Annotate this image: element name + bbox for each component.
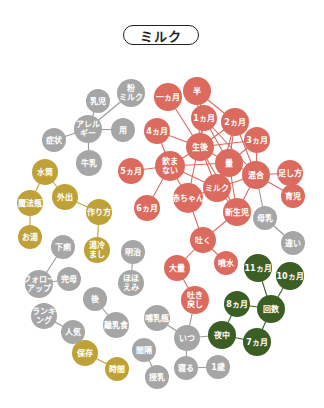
node-label: 粉 [127,83,135,93]
node-label: ない [162,166,178,175]
node-1sai: 1歳 [206,355,230,379]
node-label: 夜中 [213,330,230,340]
node-han: 半 [183,77,211,105]
node-label: 一ヵ月 [156,93,180,102]
node-itsu: いつ [174,325,200,351]
node-allergy: アレルギー [74,115,102,143]
node-label: 戻し [186,299,203,309]
node-followup: フォローアップ [23,270,55,298]
node-label: 吐く [195,235,211,245]
node-nomanai: 飲まない [155,151,185,181]
node-label: 7ヵ月 [246,338,268,347]
node-label: 1ヵ月 [193,114,215,123]
node-label: ミルク [119,92,143,102]
node-label: 8ヵ月 [226,300,248,309]
node-label: 育児 [285,191,301,201]
node-label: 後 [91,294,100,304]
node-milk: ミルク [203,174,231,202]
node-suito: 水筒 [32,159,58,185]
node-jikan: 時間 [105,357,129,381]
node-kaisu: 回数 [257,295,285,323]
node-label: 違い [285,238,301,248]
node-label: 離乳食 [104,320,129,330]
node-label: 水筒 [36,167,53,177]
node-gyunyu: 牛乳 [76,150,102,176]
node-label: 症状 [46,135,63,145]
node-label: 4ヵ月 [146,127,168,136]
node-label: 2ヵ月 [224,118,246,127]
node-2kagetsu: 2ヵ月 [221,108,249,136]
node-meiji: 明治 [121,240,145,264]
node-label: 6ヵ月 [136,204,158,213]
node-label: 乳児 [90,96,106,106]
node-label: 母乳 [257,213,273,223]
node-kongo: 混合 [242,161,270,189]
node-ikuji: 育児 [281,184,305,208]
node-label: いつ [179,334,195,343]
node-hakimodoshi: 吐き戻し [181,286,209,314]
node-ranking: ランキング [31,303,57,329]
node-tsukurikata: 作り方 [86,199,112,225]
node-label: 赤ちゃん [172,193,204,203]
node-label: 生後 [192,142,209,152]
node-hohoemi: ほほえみ [118,270,144,296]
node-label: 1歳 [211,362,225,372]
co-occurrence-network: 一ヵ月半1ヵ月2ヵ月4ヵ月3ヵ月生後飲まない量5ヵ月混合足し方ミルク赤ちゃん育児… [0,0,324,408]
node-kankaku: 間隔 [132,338,156,362]
node-junyu: 授乳 [145,365,169,389]
node-7kagetsu: 7ヵ月 [243,328,271,356]
node-label: 10ヵ月 [276,272,303,281]
node-6kagetsu: 6ヵ月 [134,195,160,221]
node-label: 飲ま [161,156,178,166]
node-rinyushoku: 離乳食 [103,312,129,338]
node-funsui: 噴水 [214,251,238,275]
node-label: 量 [225,158,233,168]
node-label: 混合 [248,170,265,180]
node-hozon: 保存 [72,340,98,366]
node-label: 牛乳 [81,158,97,168]
node-bonyu: 母乳 [253,206,277,230]
node-tashikata: 足し方 [277,160,303,186]
node-label: ランキ [32,307,56,316]
node-kaso: 下痢 [51,235,75,259]
node-label: 3ヵ月 [246,136,268,145]
node-label: ほほ [123,274,139,283]
node-label: 吐き [187,290,203,300]
node-label: 11ヵ月 [244,264,271,273]
node-5kagetsu: 5ヵ月 [118,158,144,184]
node-nyuji: 乳児 [86,89,110,113]
node-4kagetsu: 4ヵ月 [144,118,170,144]
node-label: 明治 [125,247,141,257]
node-shojo: 症状 [42,128,66,152]
node-label: ング [36,315,52,325]
node-label: お湯 [22,232,38,242]
node-label: 保存 [76,348,93,358]
node-label: 湯冷 [89,240,105,250]
node-label: ギー [80,128,96,138]
node-label: 魔法瓶 [17,198,42,208]
node-seigo: 生後 [186,133,214,161]
node-ninki: 人気 [61,320,85,344]
node-3kagetsu: 3ヵ月 [244,127,270,153]
node-yachu: 夜中 [208,321,236,349]
node-chigai: 違い [281,231,305,255]
node-1kagetsu: 1ヵ月 [191,105,217,131]
node-ichikagetsu: 一ヵ月 [154,83,182,111]
node-label: 新生児 [225,207,249,217]
node-label: アップ [27,283,52,293]
node-label: 外出 [57,192,73,202]
node-label: ミルク [205,183,229,193]
node-label: 噴水 [218,258,235,268]
node-label: 大量 [169,263,185,273]
node-kanbo: 完母 [57,267,81,291]
node-akachan: 赤ちゃん [172,183,204,213]
node-haku: 吐く [190,227,216,253]
node-label: 下痢 [55,242,71,252]
node-label: 時間 [109,364,125,374]
node-11kagetsu: 11ヵ月 [244,254,272,282]
node-8kagetsu: 8ヵ月 [224,291,250,317]
node-label: 寝る [177,363,194,373]
node-go: 後 [83,287,107,311]
node-label: 間隔 [136,345,152,355]
node-label: 足し方 [278,168,302,178]
